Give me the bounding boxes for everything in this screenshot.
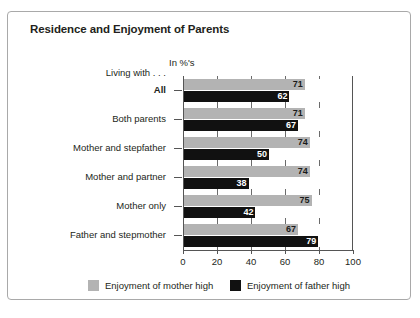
x-tick-mark — [251, 250, 252, 254]
chart-figure: Residence and Enjoyment of Parents In %'… — [7, 11, 411, 300]
bar-father: 67 — [184, 120, 298, 131]
x-tick-mark — [285, 250, 286, 254]
category-tick — [174, 90, 182, 91]
category-tick — [174, 206, 182, 207]
x-tick-label: 0 — [180, 256, 185, 267]
x-tick-label: 60 — [280, 256, 291, 267]
x-tick-mark — [183, 250, 184, 254]
chart-legend: Enjoyment of mother highEnjoyment of fat… — [8, 280, 420, 300]
gridline-segment — [319, 221, 320, 224]
x-tick-label: 80 — [314, 256, 325, 267]
bar-father: 79 — [184, 236, 318, 247]
legend-swatch-mother — [88, 280, 99, 291]
gridline-segment — [319, 163, 320, 166]
category-label: Both parents — [8, 113, 166, 124]
bar-value-label: 79 — [306, 236, 316, 247]
axis-line-bottom — [183, 250, 353, 251]
page-title: Residence and Enjoyment of Parents — [30, 23, 229, 35]
category-label: Mother only — [8, 200, 166, 211]
x-tick-label: 40 — [246, 256, 257, 267]
bar-value-label: 50 — [257, 149, 267, 160]
legend-item-mother[interactable]: Enjoyment of mother high — [88, 280, 213, 291]
legend-swatch-father — [230, 280, 241, 291]
gridline-segment — [319, 192, 320, 195]
legend-item-father[interactable]: Enjoyment of father high — [230, 280, 350, 291]
bar-value-label: 62 — [277, 91, 287, 102]
bar-value-label: 67 — [286, 120, 296, 131]
bar-mother: 74 — [184, 166, 310, 177]
bar-mother: 71 — [184, 79, 305, 90]
category-tick — [174, 148, 182, 149]
units-label: In %'s — [169, 57, 195, 68]
bar-father: 62 — [184, 91, 289, 102]
category-label: All — [8, 84, 166, 95]
bar-mother: 74 — [184, 137, 310, 148]
gridline-segment — [319, 134, 320, 137]
gridline-segment — [319, 76, 320, 79]
bar-father: 42 — [184, 207, 255, 218]
bar-value-label: 67 — [286, 224, 296, 235]
category-label: Mother and partner — [8, 171, 166, 182]
category-label: Mother and stepfather — [8, 142, 166, 153]
x-tick-label: 20 — [212, 256, 223, 267]
legend-label: Enjoyment of father high — [247, 280, 350, 291]
bar-father: 38 — [184, 178, 249, 189]
x-tick-mark — [217, 250, 218, 254]
category-tick — [174, 177, 182, 178]
bar-value-label: 71 — [293, 108, 303, 119]
bar-value-label: 38 — [237, 178, 247, 189]
plot-area: 020406080100 All7162Both parents7167Moth… — [183, 76, 353, 250]
category-axis-caption: Living with . . . — [8, 67, 166, 78]
bar-value-label: 42 — [243, 207, 253, 218]
bar-mother: 71 — [184, 108, 305, 119]
x-tick-mark — [353, 250, 354, 254]
bar-value-label: 71 — [293, 79, 303, 90]
axis-line-right — [352, 76, 353, 250]
gridline-segment — [319, 105, 320, 108]
category-label: Father and stepmother — [8, 229, 166, 240]
bar-value-label: 74 — [298, 137, 308, 148]
x-tick-label: 100 — [345, 256, 361, 267]
bar-mother: 67 — [184, 224, 298, 235]
bar-father: 50 — [184, 149, 269, 160]
x-tick-mark — [319, 250, 320, 254]
category-tick — [174, 119, 182, 120]
bar-value-label: 75 — [299, 195, 309, 206]
bar-value-label: 74 — [298, 166, 308, 177]
legend-label: Enjoyment of mother high — [105, 280, 213, 291]
category-tick — [174, 235, 182, 236]
bar-mother: 75 — [184, 195, 312, 206]
